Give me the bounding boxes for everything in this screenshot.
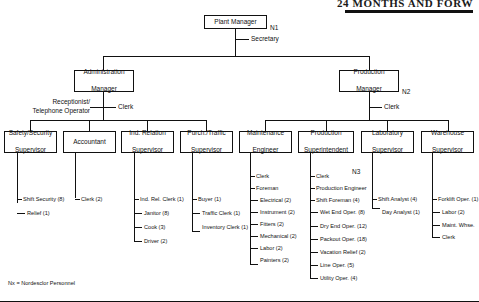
tick	[432, 212, 440, 213]
connector-root-stem	[235, 29, 236, 57]
leaf-item: Shift Analyst (4)	[378, 196, 417, 203]
box-plant-manager-label2: Manager	[231, 18, 257, 27]
tick	[17, 199, 22, 200]
tick	[134, 241, 142, 242]
label-receptionist-line1: Receptionist/	[52, 98, 90, 105]
leaf-item: Ind. Rel. Clerk (1)	[140, 196, 184, 203]
tick	[432, 225, 440, 226]
tick	[310, 212, 318, 213]
header-rule	[345, 10, 473, 13]
box-laboratory-supervisor-label2: Supervisor	[372, 146, 403, 155]
leaf-item: Foreman	[256, 185, 278, 192]
leaf-item: Maint. Whse.	[442, 222, 475, 229]
connector-prod-stem	[369, 92, 370, 120]
code-n1: N1	[270, 24, 278, 32]
tick	[134, 227, 142, 228]
org-chart: 24 MONTHS AND FORW Plant Manager N1 Secr…	[0, 0, 479, 302]
connector-root-bus	[103, 56, 369, 57]
box-laboratory-supervisor[interactable]: Laboratory Supervisor	[361, 131, 414, 153]
leaf-item: Inventory Clerk (1)	[202, 224, 248, 231]
tick	[310, 265, 318, 266]
leaf-item: Day Analyst (1)	[382, 209, 420, 216]
box-production-superintendent[interactable]: Production Superintendent	[298, 131, 354, 153]
leaf-item: Dry End Oper. (12)	[320, 223, 367, 230]
leaf-item: Clerk	[316, 173, 329, 180]
box-maintenance-engineer-label2: Engineer	[247, 146, 284, 155]
spine-safety-security	[17, 153, 18, 203]
box-accountant-label: Accountant	[73, 138, 106, 147]
box-warehouse-supervisor-label1: Warehouse	[431, 129, 464, 138]
box-warehouse-supervisor-label2: Supervisor	[431, 146, 464, 155]
leaf-item: Forklift Oper. (1)	[438, 196, 478, 203]
leaf-item: Labor (2)	[442, 209, 465, 216]
box-purch-traffic-supervisor[interactable]: Purch./Traffic Supervisor	[180, 131, 233, 153]
label-receptionist: Receptionist/ Telephone Operator	[22, 98, 90, 115]
tick	[310, 239, 318, 240]
box-laboratory-supervisor-label1: Laboratory	[372, 129, 403, 138]
connector-receptionist	[90, 107, 103, 108]
tick	[75, 199, 80, 200]
leaf-item: Clerk	[256, 173, 269, 180]
box-plant-manager-label: Plant	[214, 18, 229, 27]
code-n2: N2	[402, 88, 410, 96]
tick	[310, 188, 315, 189]
leaf-item: Shift Security (8)	[23, 196, 64, 203]
leaf-item: Production Engineer	[316, 185, 367, 192]
connector-admin-bus	[30, 120, 206, 121]
tick	[372, 208, 380, 209]
connector-admin-stem	[103, 92, 104, 120]
box-administration-manager-label2: Manager	[83, 85, 124, 94]
leaf-item: Painters (2)	[260, 257, 289, 264]
leaf-item: Buyer (1)	[198, 196, 221, 203]
tick	[192, 199, 197, 200]
box-ind-relation-supervisor[interactable]: Ind. Relation Supervisor	[121, 131, 174, 153]
leaf-item: Traffic Clerk (1)	[202, 210, 240, 217]
tick	[250, 224, 258, 225]
box-warehouse-supervisor[interactable]: Warehouse Supervisor	[421, 131, 474, 153]
tick	[372, 199, 377, 200]
tick	[310, 200, 315, 201]
code-n3: N3	[352, 168, 360, 176]
leaf-item: Electrical (2)	[260, 197, 291, 204]
leaf-item: Labor (2)	[260, 245, 283, 252]
tick	[134, 199, 139, 200]
tick	[310, 176, 315, 177]
box-ind-relation-supervisor-label1: Ind. Relation	[129, 129, 166, 138]
leaf-item: Packout Oper. (18)	[320, 236, 367, 243]
leaf-item: Wet End Oper. (8)	[320, 209, 365, 216]
box-production-manager[interactable]: Production Manager	[339, 70, 399, 92]
tick	[250, 264, 258, 265]
tick	[432, 237, 440, 238]
leaf-item: Fitters (2)	[260, 221, 284, 228]
spine-accountant	[75, 153, 76, 198]
box-plant-manager[interactable]: Plant Manager	[204, 15, 267, 29]
box-administration-manager-label1: Administration	[83, 68, 124, 77]
connector-prod-clerk	[369, 107, 382, 108]
tick	[134, 213, 142, 214]
leaf-item: Cook (3)	[144, 224, 165, 231]
box-production-superintendent-label1: Production	[304, 129, 348, 138]
label-secretary: Secretary	[251, 35, 279, 44]
box-administration-manager[interactable]: Administration Manager	[74, 70, 134, 92]
footnote: Nx = Nordesclor Personnel	[8, 280, 75, 286]
box-purch-traffic-supervisor-label2: Supervisor	[187, 146, 225, 155]
leaf-item: Instrument (2)	[260, 209, 295, 216]
box-production-manager-label1: Production	[353, 68, 384, 77]
leaf-item: Shift Foreman (4)	[316, 197, 360, 204]
tick	[310, 278, 318, 279]
connector-admin-clerk	[103, 107, 116, 108]
leaf-item: Relief (1)	[27, 210, 50, 217]
tick	[432, 199, 437, 200]
box-maintenance-engineer[interactable]: Maintenance Engineer	[239, 131, 292, 153]
box-safety-security-supervisor-label2: Supervisor	[9, 146, 53, 155]
box-safety-security-supervisor-label1: Safety/Security	[9, 129, 53, 138]
connector-prod-bus	[265, 120, 448, 121]
box-purch-traffic-supervisor-label1: Purch./Traffic	[187, 129, 225, 138]
leaf-item: Vacation Relief (2)	[320, 249, 366, 256]
box-safety-security-supervisor[interactable]: Safety/Security Supervisor	[4, 131, 57, 153]
tick	[310, 226, 318, 227]
box-accountant[interactable]: Accountant	[63, 131, 116, 153]
leaf-item: Driver (2)	[144, 238, 167, 245]
tick	[250, 188, 255, 189]
leaf-item: Mechanical (2)	[260, 233, 297, 240]
